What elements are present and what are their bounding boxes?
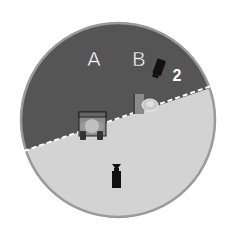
desk-with-person-icon — [79, 112, 106, 140]
camera-count: 2 — [173, 67, 182, 84]
label-a: A — [87, 48, 101, 70]
label-b: B — [132, 48, 145, 70]
circular-diagram: A B 2 — [0, 0, 228, 233]
